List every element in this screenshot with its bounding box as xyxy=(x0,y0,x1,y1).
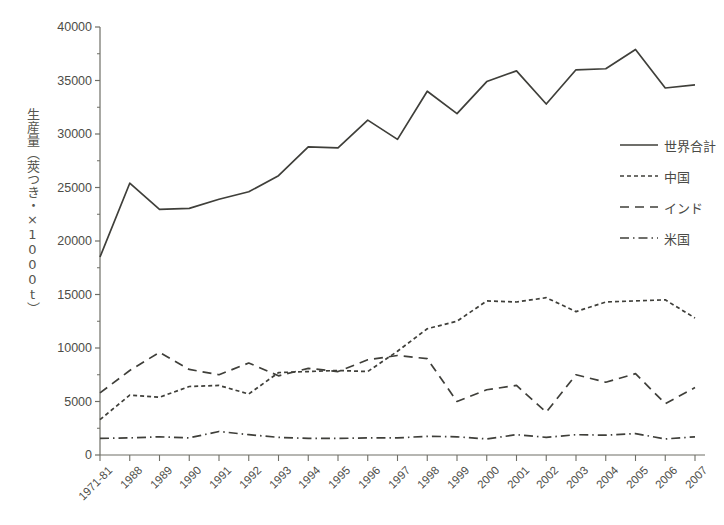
legend-item-label: インド xyxy=(664,198,703,217)
legend-item-label: 米国 xyxy=(664,229,690,248)
series-line-2 xyxy=(100,298,695,420)
series-line-1 xyxy=(100,49,695,257)
legend-item-label: 世界合計 xyxy=(664,136,716,155)
series-line-4 xyxy=(100,431,695,438)
series-line-3 xyxy=(100,352,695,412)
legend-item-label: 中国 xyxy=(664,167,690,186)
chart-container: 生産量（莢つき・×1000t） 050001000015000200002500… xyxy=(0,0,724,525)
plot-area xyxy=(0,0,724,525)
